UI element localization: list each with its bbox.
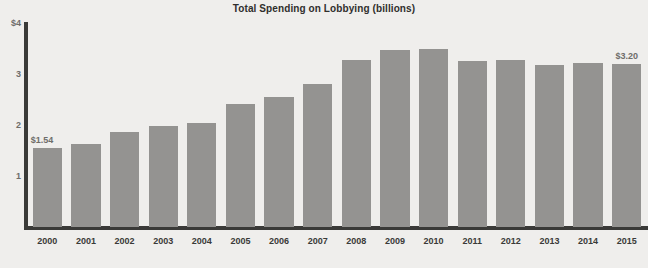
x-axis-tick-2008: 2008 bbox=[337, 236, 376, 246]
x-axis-tick-2006: 2006 bbox=[260, 236, 299, 246]
y-axis-tick-1: 1 bbox=[1, 171, 21, 181]
bar-2012 bbox=[496, 60, 525, 227]
bar-value-label-2015: $3.20 bbox=[609, 51, 644, 61]
bar-2014 bbox=[573, 63, 602, 227]
chart-title: Total Spending on Lobbying (billions) bbox=[0, 3, 648, 14]
x-axis-tick-2001: 2001 bbox=[67, 236, 106, 246]
bar-2005 bbox=[226, 104, 255, 227]
bar-2008 bbox=[342, 60, 371, 227]
bar-2003 bbox=[149, 126, 178, 227]
x-axis-tick-2003: 2003 bbox=[144, 236, 183, 246]
x-axis-tick-2004: 2004 bbox=[183, 236, 222, 246]
bar-2001 bbox=[71, 144, 100, 227]
bar-2007 bbox=[303, 84, 332, 227]
bar-2011 bbox=[458, 61, 487, 227]
x-axis-tick-2010: 2010 bbox=[414, 236, 453, 246]
bar-2002 bbox=[110, 132, 139, 227]
bar-value-label-2000: $1.54 bbox=[31, 135, 54, 145]
x-axis-tick-2014: 2014 bbox=[569, 236, 608, 246]
y-axis-tick-3: 3 bbox=[1, 69, 21, 79]
x-axis-tick-2012: 2012 bbox=[492, 236, 531, 246]
bar-2009 bbox=[380, 50, 409, 227]
x-axis-tick-2007: 2007 bbox=[298, 236, 337, 246]
bar-2000 bbox=[33, 148, 62, 227]
bar-2004 bbox=[187, 123, 216, 227]
bar-2013 bbox=[535, 65, 564, 227]
y-axis-tick-4: $4 bbox=[1, 18, 21, 28]
x-axis-tick-2000: 2000 bbox=[28, 236, 67, 246]
x-axis-tick-2002: 2002 bbox=[105, 236, 144, 246]
x-axis-tick-2015: 2015 bbox=[607, 236, 646, 246]
bar-2010 bbox=[419, 49, 448, 228]
x-axis-tick-2011: 2011 bbox=[453, 236, 492, 246]
x-axis-tick-2013: 2013 bbox=[530, 236, 569, 246]
bar-2006 bbox=[264, 97, 293, 227]
chart-container: Total Spending on Lobbying (billions) $4… bbox=[0, 0, 648, 268]
x-axis-tick-2005: 2005 bbox=[221, 236, 260, 246]
bar-2015 bbox=[612, 64, 641, 227]
y-axis-line bbox=[24, 22, 28, 227]
x-axis-tick-2009: 2009 bbox=[376, 236, 415, 246]
y-axis-tick-2: 2 bbox=[1, 120, 21, 130]
